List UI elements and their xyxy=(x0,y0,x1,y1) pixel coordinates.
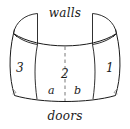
sub-panel-label-b: b xyxy=(74,85,81,96)
right-bottom-cusp-mark xyxy=(114,88,118,94)
sub-panel-label-a: a xyxy=(48,85,55,96)
body-left-side xyxy=(10,34,14,96)
caption-walls: walls xyxy=(0,7,130,19)
panel-label-center: 2 xyxy=(61,68,69,80)
panel-label-right: 1 xyxy=(106,62,114,74)
body-top-arc xyxy=(14,34,117,46)
body-right-side xyxy=(116,34,120,96)
left-bottom-cusp-mark xyxy=(12,88,16,94)
panel-label-left: 3 xyxy=(16,62,24,74)
figure-container: walls doors 3 2 1 a b xyxy=(0,0,130,129)
caption-doors: doors xyxy=(0,110,130,122)
panel-divider-right xyxy=(93,45,96,100)
panel-divider-left xyxy=(35,45,38,100)
